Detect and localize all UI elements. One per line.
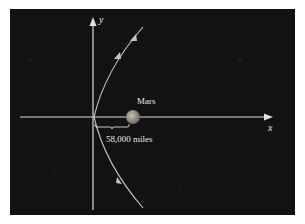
distance-label: 58,000 miles (106, 134, 153, 144)
y-axis-label: y (98, 14, 104, 25)
x-axis-label: x (267, 122, 273, 133)
mars-planet (126, 110, 140, 124)
mars-label: Mars (137, 96, 156, 106)
space-background (10, 9, 295, 215)
orbit-diagram: x y Mars 58,000 miles (0, 0, 305, 224)
